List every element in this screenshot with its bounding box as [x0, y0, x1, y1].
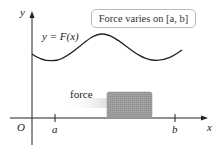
- x-axis-label: x: [207, 122, 212, 133]
- force-label: force: [70, 89, 93, 100]
- tick-label-a: a: [52, 124, 58, 135]
- moving-block: [107, 92, 152, 118]
- curve-label: y = F(x): [42, 31, 79, 42]
- tick-label-b: b: [172, 124, 178, 135]
- callout-box: Force varies on [a, b]: [91, 9, 196, 28]
- y-axis-arrow-icon: [30, 11, 35, 18]
- x-axis-arrow-icon: [201, 116, 208, 121]
- y-axis-label: y: [20, 7, 25, 18]
- origin-label: O: [17, 122, 25, 133]
